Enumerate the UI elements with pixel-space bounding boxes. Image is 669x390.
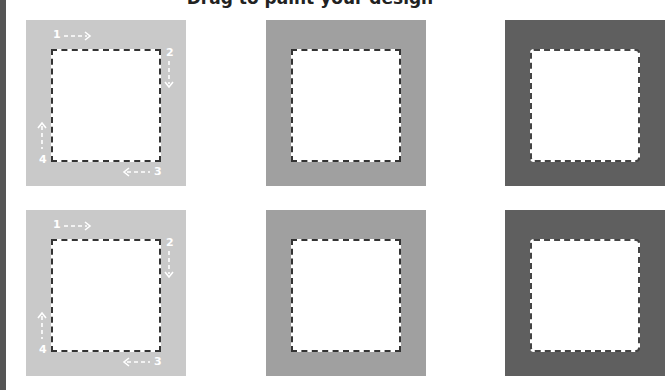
page-title: Drag to paint your design (150, 0, 470, 8)
dashed-selection-box[interactable] (530, 49, 640, 162)
arrow-left-icon (121, 357, 151, 367)
dashed-selection-box[interactable] (51, 239, 161, 352)
step-label-4: 4 (39, 154, 47, 165)
arrow-down-icon (164, 60, 174, 90)
step-label-3: 3 (154, 356, 162, 367)
step-label-1: 1 (53, 219, 61, 230)
arrow-up-icon (37, 310, 47, 340)
panel-dark-row1 (505, 20, 665, 186)
dashed-selection-box[interactable] (291, 239, 401, 352)
arrow-right-icon (63, 221, 93, 231)
step-label-2: 2 (166, 47, 174, 58)
step-label-1: 1 (53, 29, 61, 40)
panel-light-row1: 1 2 3 4 (26, 20, 186, 186)
step-label-4: 4 (39, 344, 47, 355)
dashed-selection-box[interactable] (51, 49, 161, 162)
step-label-2: 2 (166, 237, 174, 248)
arrow-right-icon (63, 31, 93, 41)
panel-mid-row1 (266, 20, 426, 186)
panel-light-row2: 1 2 3 4 (26, 210, 186, 376)
arrow-left-icon (121, 167, 151, 177)
arrow-down-icon (164, 250, 174, 280)
arrow-up-icon (37, 120, 47, 150)
left-edge-bar (0, 0, 6, 390)
dashed-selection-box[interactable] (530, 239, 640, 352)
panel-mid-row2 (266, 210, 426, 376)
dashed-selection-box[interactable] (291, 49, 401, 162)
step-label-3: 3 (154, 166, 162, 177)
panel-dark-row2 (505, 210, 665, 376)
